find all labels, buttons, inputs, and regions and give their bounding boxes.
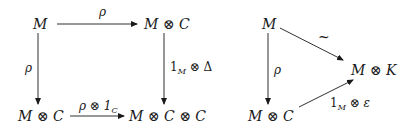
label-bottom-main: ρ ⊗ 1	[79, 99, 111, 113]
label-counit-sub: M	[338, 103, 346, 112]
node-tri-right: M ⊗ K	[351, 63, 396, 77]
label-left-rho: ρ	[25, 62, 32, 74]
node-bottom-left: M ⊗ C	[18, 109, 64, 123]
label-counit: 1M ⊗ ε	[330, 97, 370, 112]
label-top-rho: ρ	[99, 6, 106, 18]
label-bottom-sub: C	[111, 106, 117, 115]
label-tilde: ~	[318, 30, 330, 44]
node-bottom-right: M ⊗ C ⊗ C	[129, 109, 206, 123]
label-right-one: 1	[170, 60, 178, 74]
label-right-comult: 1M ⊗ Δ	[170, 61, 212, 76]
node-tri-top: M	[262, 17, 276, 31]
node-top-right: M ⊗ C	[144, 17, 190, 31]
label-bottom-rho-1c: ρ ⊗ 1C	[79, 100, 118, 115]
node-tri-bottom: M ⊗ C	[248, 109, 294, 123]
label-counit-rest: ⊗ ε	[346, 96, 370, 110]
label-tri-left-rho: ρ	[274, 64, 281, 76]
label-right-rest: ⊗ Δ	[186, 60, 212, 74]
label-right-sub: M	[178, 67, 186, 76]
label-counit-one: 1	[330, 96, 338, 110]
arrow-diag-tilde	[280, 28, 343, 60]
node-top-left: M	[33, 17, 47, 31]
